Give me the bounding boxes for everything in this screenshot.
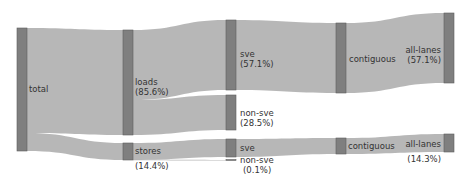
label-stores-sve: sve bbox=[240, 143, 255, 153]
node-loads-nonsve[interactable] bbox=[226, 95, 236, 130]
node-stores-nonsve[interactable] bbox=[226, 160, 236, 161]
label-total: total bbox=[29, 84, 48, 94]
node-loads-contiguous[interactable] bbox=[336, 23, 346, 93]
label-loads-all-lanes-pct: (57.1%) bbox=[407, 55, 441, 65]
node-loads-all-lanes[interactable] bbox=[444, 13, 454, 83]
label-loads-nonsve: non-sve bbox=[240, 108, 274, 118]
link-loads-nonsve[interactable] bbox=[133, 95, 226, 135]
label-stores-all-lanes: all-lanes bbox=[405, 139, 441, 149]
node-stores-all-lanes[interactable] bbox=[444, 134, 454, 152]
node-stores[interactable] bbox=[123, 143, 133, 160]
label-loads-contiguous: contiguous bbox=[349, 54, 396, 64]
label-loads-sve: sve bbox=[240, 49, 255, 59]
label-loads-pct: (85.6%) bbox=[135, 87, 169, 97]
label-loads-nonsve-pct: (28.5%) bbox=[240, 118, 274, 128]
link-total-loads[interactable] bbox=[27, 28, 123, 135]
label-loads-sve-pct: (57.1%) bbox=[240, 59, 274, 69]
link-total-stores[interactable] bbox=[27, 133, 123, 160]
node-stores-contiguous[interactable] bbox=[336, 138, 346, 154]
label-stores-pct: (14.4%) bbox=[135, 161, 169, 171]
node-loads-sve[interactable] bbox=[226, 20, 236, 90]
node-stores-sve[interactable] bbox=[226, 139, 236, 157]
sankey-diagram: total loads (85.6%) stores (14.4%) sve (… bbox=[0, 0, 475, 182]
node-total[interactable] bbox=[17, 28, 27, 151]
label-stores-nonsve: non-sve bbox=[240, 155, 274, 165]
label-stores-all-lanes-pct: (14.3%) bbox=[407, 154, 441, 164]
label-stores-nonsve-pct: (0.1%) bbox=[243, 165, 271, 175]
label-stores: stores bbox=[135, 146, 161, 156]
label-loads-all-lanes: all-lanes bbox=[405, 45, 441, 55]
label-stores-contiguous: contiguous bbox=[348, 141, 395, 151]
label-loads: loads bbox=[135, 77, 158, 87]
node-loads[interactable] bbox=[123, 30, 133, 135]
